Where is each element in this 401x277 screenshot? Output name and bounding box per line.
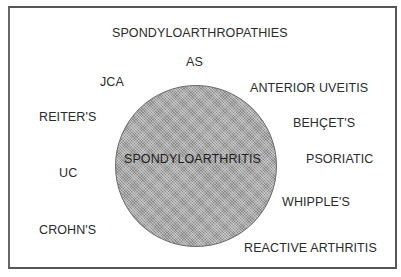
condition-label-as: AS — [186, 56, 203, 69]
spondyloarthritis-circle — [115, 85, 277, 247]
condition-label-behcets: BEHÇET'S — [293, 117, 355, 130]
condition-label-uc: UC — [59, 167, 77, 180]
condition-label-psoriatic: PSORIATIC — [306, 153, 373, 166]
condition-label-crohns: CROHN'S — [39, 224, 96, 237]
condition-label-anterior-uveitis: ANTERIOR UVEITIS — [250, 82, 368, 95]
condition-label-jca: JCA — [100, 76, 124, 89]
condition-label-whipples: WHIPPLE'S — [282, 196, 350, 209]
outer-set-label: SPONDYLOARTHROPATHIES — [112, 27, 288, 40]
condition-label-reiters: REITER'S — [39, 111, 96, 124]
inner-set-label: SPONDYLOARTHRITIS — [124, 153, 261, 166]
condition-label-reactive-arthritis: REACTIVE ARTHRITIS — [244, 242, 377, 255]
